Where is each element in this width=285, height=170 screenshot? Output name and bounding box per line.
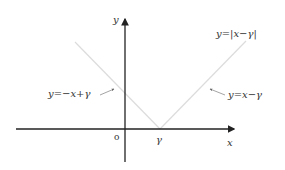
absolute-value-diagram: y x o γ y=|x−γ| y=−x+γ y=x−γ [0, 0, 285, 170]
right-branch-pointer [210, 89, 225, 95]
origin-label: o [114, 132, 119, 142]
x-axis-label: x [227, 137, 233, 148]
y-axis-label: y [112, 14, 119, 25]
vertex-gamma-label: γ [156, 134, 162, 145]
graph-right-branch [160, 41, 246, 129]
graph-left-branch [75, 42, 160, 129]
right-branch-label: y=x−γ [227, 89, 262, 100]
left-branch-pointer [100, 89, 114, 95]
function-label: y=|x−γ| [215, 28, 257, 40]
left-branch-label: y=−x+γ [47, 88, 90, 99]
